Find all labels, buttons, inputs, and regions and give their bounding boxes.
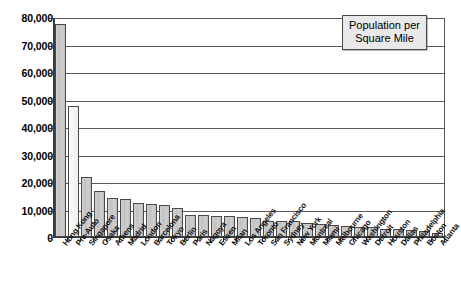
bar: [55, 24, 67, 237]
y-axis-tick-label: 70,000: [5, 41, 53, 51]
y-axis-tick-label: 80,000: [5, 13, 53, 23]
y-axis-tick-label: 40,000: [5, 123, 53, 133]
x-axis-labels: Hong KongPre-AutoSingaporeOsakaAthensMad…: [0, 238, 450, 301]
legend: Population per Square Mile: [342, 15, 427, 50]
legend-label-line2: Square Mile: [349, 32, 420, 45]
legend-label-line1: Population per: [349, 19, 420, 32]
bar: [68, 106, 80, 237]
y-axis-tick-label: 30,000: [5, 151, 53, 161]
y-axis-tick-label: 50,000: [5, 96, 53, 106]
y-axis-tick-label: 60,000: [5, 68, 53, 78]
y-axis-tick-label: 20,000: [5, 178, 53, 188]
bars-container: [54, 18, 444, 237]
y-axis-tick-label: 10,000: [5, 206, 53, 216]
